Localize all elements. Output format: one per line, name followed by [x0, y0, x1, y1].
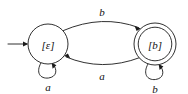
state-b-label: [b]: [148, 39, 162, 51]
automaton-diagram: [b] --> b [epsilon] --> a a b [ε]: [0, 0, 188, 94]
transition-b-to-epsilon-label: a: [99, 70, 105, 82]
transition-b-to-epsilon-path: [66, 57, 140, 65]
transition-b-to-epsilon: a: [64, 54, 140, 83]
transition-epsilon-to-b-label: b: [99, 6, 105, 18]
start-arrow-head-icon: [23, 42, 28, 47]
transition-b-self-loop-label: b: [152, 83, 158, 94]
start-arrow: [8, 42, 28, 47]
automaton-canvas: [b] --> b [epsilon] --> a a b [ε]: [0, 0, 188, 94]
transition-epsilon-self-loop-label: a: [45, 81, 51, 93]
transition-b-self-loop: b: [146, 64, 164, 94]
transition-epsilon-to-b: b: [64, 6, 141, 31]
transition-epsilon-to-b-path: [64, 21, 139, 30]
state-b[interactable]: [b]: [134, 23, 176, 65]
state-epsilon[interactable]: [ε]: [28, 24, 68, 64]
transition-epsilon-self-loop: a: [39, 63, 57, 93]
state-epsilon-label: [ε]: [42, 39, 55, 51]
